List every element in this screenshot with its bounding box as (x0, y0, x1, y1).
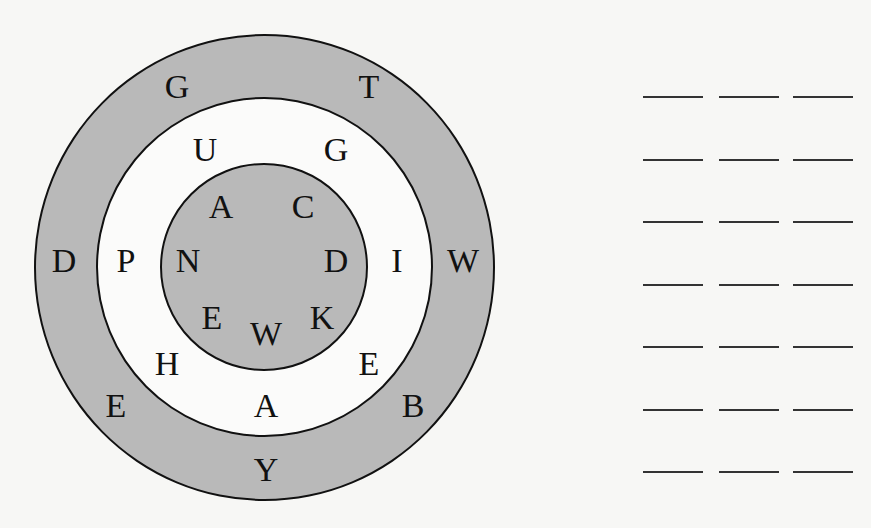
answer-blank[interactable] (643, 96, 703, 98)
middle-ring-letter: U (193, 133, 218, 167)
outer-ring-letter: Y (254, 453, 279, 487)
inner-circle-letter: D (324, 244, 349, 278)
middle-ring-letter: H (155, 347, 180, 381)
inner-circle-letter: E (202, 301, 223, 335)
answer-blank[interactable] (643, 409, 703, 411)
answer-blank[interactable] (719, 284, 779, 286)
answer-blank[interactable] (793, 346, 853, 348)
answer-row (643, 403, 863, 466)
answer-row (643, 465, 863, 528)
answer-blank[interactable] (793, 471, 853, 473)
outer-ring-letter: T (359, 70, 380, 104)
outer-ring-letter: D (52, 244, 77, 278)
answer-blank[interactable] (793, 96, 853, 98)
answer-blank[interactable] (793, 159, 853, 161)
answer-blank[interactable] (643, 159, 703, 161)
answer-blank[interactable] (643, 471, 703, 473)
outer-ring-letter: E (106, 389, 127, 423)
outer-ring-letter: G (165, 70, 190, 104)
letter-circle-puzzle: GTDWEBYUGPIHEAACNDEWK (0, 0, 540, 528)
answer-blanks (643, 90, 863, 528)
answer-blank[interactable] (643, 221, 703, 223)
answer-blank[interactable] (793, 284, 853, 286)
inner-circle-letter: A (209, 190, 234, 224)
answer-blank[interactable] (719, 346, 779, 348)
middle-ring-letter: A (254, 389, 279, 423)
answer-blank[interactable] (643, 346, 703, 348)
middle-ring-letter: G (324, 133, 349, 167)
answer-row (643, 90, 863, 153)
answer-blank[interactable] (643, 284, 703, 286)
answer-blank[interactable] (719, 409, 779, 411)
answer-row (643, 153, 863, 216)
middle-ring-letter: P (117, 244, 136, 278)
inner-circle-letter: N (176, 244, 201, 278)
middle-ring-letter: E (359, 347, 380, 381)
answer-row (643, 215, 863, 278)
inner-circle-letter: C (292, 190, 315, 224)
outer-ring-letter: B (402, 389, 425, 423)
middle-ring-letter: I (391, 244, 402, 278)
answer-blank[interactable] (719, 96, 779, 98)
answer-blank[interactable] (793, 409, 853, 411)
inner-circle-letter: K (310, 301, 335, 335)
answer-blank[interactable] (719, 159, 779, 161)
answer-blank[interactable] (719, 221, 779, 223)
inner-circle-letter: W (250, 317, 282, 351)
answer-blank[interactable] (793, 221, 853, 223)
answer-blank[interactable] (719, 471, 779, 473)
answer-row (643, 278, 863, 341)
outer-ring-letter: W (447, 244, 479, 278)
answer-row (643, 340, 863, 403)
